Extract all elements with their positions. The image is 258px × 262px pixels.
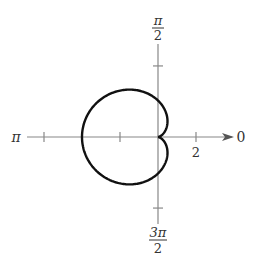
label-zero: 0 <box>237 129 246 145</box>
label-pi: π <box>10 129 21 145</box>
axes <box>27 44 232 224</box>
label-pi-half-num: π <box>153 13 163 28</box>
label-three-pi-half-num: 3π <box>150 225 167 240</box>
label-pi-half-den: 2 <box>154 28 162 43</box>
polar-plot: π 2 3π 2 π 0 2 <box>0 0 258 262</box>
label-three-pi-half-den: 2 <box>154 241 162 256</box>
tick-label-2: 2 <box>192 145 200 160</box>
